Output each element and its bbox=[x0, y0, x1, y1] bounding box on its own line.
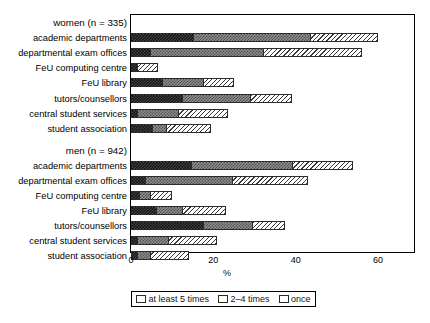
x-tick-label: 20 bbox=[208, 255, 218, 265]
stacked-bar bbox=[131, 109, 228, 118]
bar-segment-s5 bbox=[131, 206, 156, 215]
legend-item-2-4-times: 2–4 times bbox=[218, 294, 270, 305]
chart-row: academic departments bbox=[0, 159, 430, 173]
bar-segment-s1 bbox=[310, 33, 378, 42]
category-label: student association bbox=[0, 249, 127, 263]
chart-row: academic departments bbox=[0, 31, 430, 45]
stacked-bar bbox=[131, 161, 353, 170]
chart-row: central student services bbox=[0, 107, 430, 121]
bar-segment-s24 bbox=[182, 94, 250, 103]
bar-segment-s5 bbox=[131, 78, 162, 87]
stacked-bar bbox=[131, 191, 172, 200]
bar-segment-s5 bbox=[131, 161, 191, 170]
bar-segment-s1 bbox=[168, 236, 217, 245]
category-label: academic departments bbox=[0, 159, 127, 173]
legend-swatch-once bbox=[279, 295, 289, 303]
bar-segment-s1 bbox=[166, 124, 211, 133]
bar-segment-s1 bbox=[178, 109, 227, 118]
stacked-bar bbox=[131, 33, 378, 42]
group-heading-row: men (n = 942) bbox=[0, 144, 430, 158]
bar-segment-s24 bbox=[156, 206, 183, 215]
legend-swatch-2-4-times bbox=[218, 295, 228, 303]
legend-item-at-least-5-times: at least 5 times bbox=[136, 294, 209, 305]
chart-row: departmental exam offices bbox=[0, 174, 430, 188]
bar-segment-s1 bbox=[250, 94, 291, 103]
bar-segment-s24 bbox=[150, 48, 263, 57]
category-label: tutors/counsellors bbox=[0, 219, 127, 233]
group-heading-row: women (n = 335) bbox=[0, 16, 430, 30]
legend-label-at-least-5-times: at least 5 times bbox=[149, 294, 210, 305]
bar-segment-s1 bbox=[263, 48, 362, 57]
bar-segment-s1 bbox=[150, 251, 189, 260]
category-label: central student services bbox=[0, 107, 127, 121]
bar-segment-s5 bbox=[131, 33, 193, 42]
bar-segment-s24 bbox=[203, 221, 252, 230]
bar-segment-s1 bbox=[203, 78, 234, 87]
chart-row: FeU computing centre bbox=[0, 189, 430, 203]
legend-label-once: once bbox=[291, 294, 311, 305]
chart-legend: at least 5 times 2–4 times once bbox=[131, 291, 316, 307]
category-label: FeU computing centre bbox=[0, 61, 127, 75]
bar-segment-s5 bbox=[131, 176, 145, 185]
category-label: FeU library bbox=[0, 204, 127, 218]
bar-segment-s24 bbox=[191, 161, 292, 170]
group-label: women (n = 335) bbox=[0, 16, 127, 30]
bar-segment-s1 bbox=[232, 176, 308, 185]
bar-segment-s5 bbox=[131, 124, 152, 133]
bar-segment-s5 bbox=[131, 221, 203, 230]
legend-item-once: once bbox=[279, 294, 311, 305]
bar-segment-s1 bbox=[252, 221, 285, 230]
bar-segment-s24 bbox=[137, 251, 149, 260]
bar-segment-s1 bbox=[150, 191, 173, 200]
chart-row: student association bbox=[0, 122, 430, 136]
bar-segment-s24 bbox=[152, 124, 166, 133]
category-label: departmental exam offices bbox=[0, 174, 127, 188]
stacked-bar bbox=[131, 206, 226, 215]
stacked-bar bbox=[131, 176, 308, 185]
x-tick-label: 60 bbox=[373, 255, 383, 265]
chart-row: FeU library bbox=[0, 76, 430, 90]
bar-segment-s24 bbox=[137, 109, 178, 118]
x-tick-label: 0 bbox=[128, 255, 133, 265]
x-axis-title: % bbox=[0, 268, 430, 278]
bar-segment-s24 bbox=[137, 236, 168, 245]
stacked-bar bbox=[131, 48, 362, 57]
category-label: FeU computing centre bbox=[0, 189, 127, 203]
stacked-bar bbox=[131, 78, 234, 87]
bar-segment-s5 bbox=[131, 94, 182, 103]
chart-row: FeU library bbox=[0, 204, 430, 218]
stacked-bar bbox=[131, 221, 285, 230]
bar-segment-s5 bbox=[131, 191, 139, 200]
chart-row: central student services bbox=[0, 234, 430, 248]
bar-segment-s24 bbox=[193, 33, 310, 42]
category-label: student association bbox=[0, 122, 127, 136]
category-label: tutors/counsellors bbox=[0, 92, 127, 106]
x-axis-title-label: % bbox=[223, 268, 231, 278]
bar-segment-s24 bbox=[145, 176, 231, 185]
bar-segment-s24 bbox=[162, 78, 203, 87]
bar-segment-s1 bbox=[137, 63, 158, 72]
category-label: academic departments bbox=[0, 31, 127, 45]
chart-row: tutors/counsellors bbox=[0, 92, 430, 106]
legend-swatch-at-least-5-times bbox=[136, 295, 146, 303]
stacked-bar bbox=[131, 94, 292, 103]
category-label: departmental exam offices bbox=[0, 46, 127, 60]
legend-label-2-4-times: 2–4 times bbox=[231, 294, 270, 305]
chart-row: tutors/counsellors bbox=[0, 219, 430, 233]
stacked-bar bbox=[131, 251, 189, 260]
group-label: men (n = 942) bbox=[0, 144, 127, 158]
chart-row: FeU computing centre bbox=[0, 61, 430, 75]
bar-segment-s1 bbox=[182, 206, 225, 215]
stacked-bar-chart: women (n = 335)academic departmentsdepar… bbox=[0, 0, 430, 323]
bar-segment-s5 bbox=[131, 48, 150, 57]
bar-segment-s24 bbox=[139, 191, 149, 200]
stacked-bar bbox=[131, 124, 211, 133]
bar-segment-s1 bbox=[292, 161, 354, 170]
stacked-bar bbox=[131, 63, 158, 72]
category-label: central student services bbox=[0, 234, 127, 248]
chart-row: departmental exam offices bbox=[0, 46, 430, 60]
x-tick-label: 40 bbox=[291, 255, 301, 265]
stacked-bar bbox=[131, 236, 217, 245]
category-label: FeU library bbox=[0, 76, 127, 90]
